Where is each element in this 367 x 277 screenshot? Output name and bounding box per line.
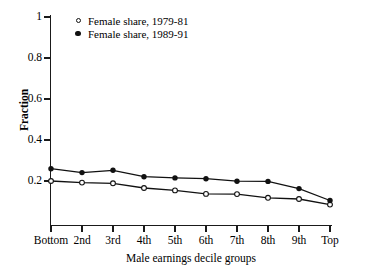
data-point-open — [142, 186, 147, 191]
data-point-open — [111, 181, 116, 186]
data-point-open — [266, 195, 271, 200]
data-point-open — [204, 192, 209, 197]
data-point-open — [297, 197, 302, 202]
chart-figure: 0.20.40.60.81 Bottom2nd3rd4th5th6th7th8t… — [0, 0, 367, 277]
series-line — [51, 181, 330, 205]
data-point-open — [235, 192, 240, 197]
data-point-open — [80, 180, 85, 185]
series-line — [51, 169, 330, 201]
data-point-filled — [265, 179, 270, 184]
data-point-filled — [172, 175, 177, 180]
data-point-open — [173, 188, 178, 193]
data-point-filled — [110, 168, 115, 173]
data-point-filled — [79, 170, 84, 175]
data-point-filled — [234, 179, 239, 184]
data-point-filled — [327, 198, 332, 203]
data-point-filled — [48, 166, 53, 171]
data-point-filled — [203, 176, 208, 181]
data-point-filled — [141, 174, 146, 179]
data-point-open — [49, 179, 54, 184]
chart-plot-area — [0, 0, 367, 277]
data-point-filled — [296, 186, 301, 191]
